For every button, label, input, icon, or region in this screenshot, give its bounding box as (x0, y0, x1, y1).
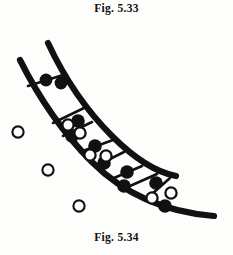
open-circle-5 (146, 192, 157, 203)
free-open-circle-3 (73, 200, 84, 211)
filled-circle-7 (120, 165, 134, 179)
filled-circle-9 (149, 176, 163, 190)
filled-circle-2 (55, 77, 68, 90)
free-open-circle-1 (12, 126, 23, 137)
figure-page: Fig. 5.33 Fig. 5.34 (0, 0, 233, 255)
filled-circle-10 (158, 199, 172, 213)
filled-circle-1 (40, 74, 53, 87)
free-open-circle-2 (42, 164, 53, 175)
figure-caption-top: Fig. 5.33 (0, 2, 233, 14)
open-circle-4 (100, 150, 111, 161)
open-circle-2 (74, 127, 85, 138)
open-circle-1 (62, 119, 73, 130)
figure-caption-bottom: Fig. 5.34 (0, 231, 233, 243)
figure-diagram (0, 26, 233, 228)
open-circle-6 (165, 187, 176, 198)
open-circle-3 (84, 149, 95, 160)
filled-circle-8 (117, 179, 131, 193)
